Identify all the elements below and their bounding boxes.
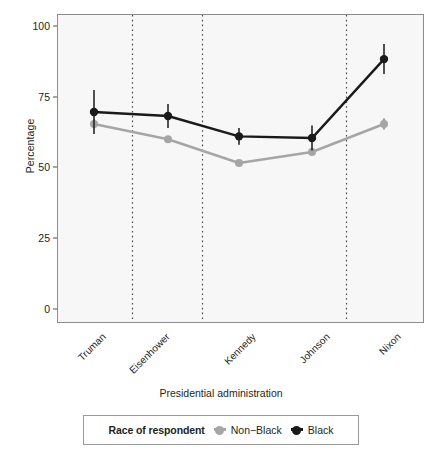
chart-figure: Percentage 100 75 50 25 0 Truman Eisenho… <box>0 0 442 458</box>
data-point <box>164 135 172 143</box>
legend-entry-non-black[interactable]: Non−Black <box>214 424 282 436</box>
data-point <box>380 120 388 128</box>
y-tick-marks <box>53 26 57 309</box>
legend-marker-black-icon <box>291 426 303 435</box>
data-point <box>235 159 243 167</box>
legend-entry-black[interactable]: Black <box>291 424 334 436</box>
legend-marker-non-black-icon <box>214 426 226 435</box>
plot-panel <box>58 15 424 323</box>
legend-label-black: Black <box>308 424 334 436</box>
data-point <box>380 55 388 63</box>
data-point <box>235 132 243 140</box>
legend: Race of respondent Non−Black Black <box>83 415 359 445</box>
legend-title: Race of respondent <box>109 424 205 436</box>
data-point <box>90 108 98 116</box>
legend-label-non-black: Non−Black <box>231 424 282 436</box>
data-point <box>308 134 316 142</box>
x-axis-label: Presidential administration <box>0 387 442 399</box>
data-point <box>164 112 172 120</box>
